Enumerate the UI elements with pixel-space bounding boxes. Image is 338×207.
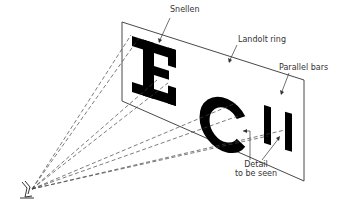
label-detail-line1: Detail (226, 160, 286, 169)
label-parallel-bars: Parallel bars (279, 63, 328, 72)
eye-icon (20, 181, 34, 198)
label-snellen: Snellen (170, 5, 200, 14)
label-landolt-ring: Landolt ring (238, 35, 286, 44)
label-detail-line2: to be seen (226, 169, 286, 178)
acuity-diagram (0, 0, 338, 207)
label-detail: Detail to be seen (226, 160, 286, 178)
